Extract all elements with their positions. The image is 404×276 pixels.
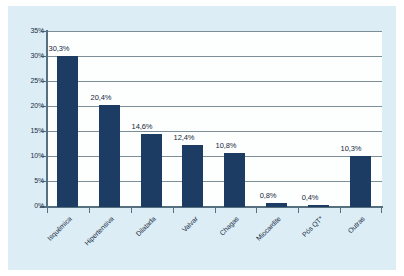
- x-cat-label-outras: Outras: [290, 215, 366, 276]
- x-axis-category-labels: Isquêmica Hipertensiva Dilatada Valvar C…: [0, 0, 404, 276]
- chart-figure: 35% 30% 25% 20% 15% 10% 5% 0% 30,3% 20,4…: [0, 0, 404, 276]
